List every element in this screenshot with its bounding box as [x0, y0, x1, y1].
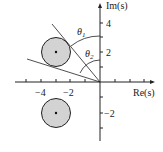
- x-tick-label-neg2: −2: [63, 87, 74, 98]
- theta1-label: θ1: [77, 26, 85, 39]
- y-tick-label-2: 2: [106, 47, 111, 58]
- y-tick-label-neg2: −2: [104, 108, 115, 119]
- imag-axis-arrow-icon: [98, 3, 102, 8]
- upper-disk-center: [55, 51, 57, 53]
- complex-plane-diagram: Im(s) Re(s) 4 2 −2 −4 −2 θ1 θ2: [0, 0, 163, 152]
- real-axis-arrow-icon: [150, 80, 155, 84]
- y-tick-label-4: 4: [106, 18, 111, 29]
- x-axis-label: Re(s): [133, 87, 155, 99]
- theta1-arc: [71, 36, 100, 46]
- lower-disk-center: [55, 112, 57, 114]
- x-tick-label-neg4: −4: [35, 87, 46, 98]
- theta2-label: θ2: [85, 48, 94, 61]
- y-axis-label: Im(s): [106, 0, 128, 12]
